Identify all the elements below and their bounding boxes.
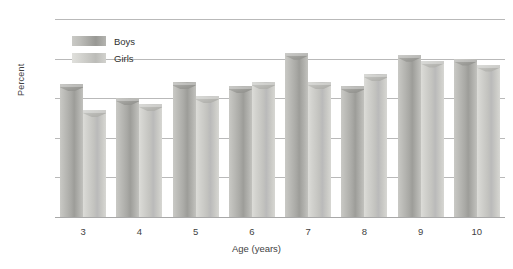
bar-body [398,55,421,217]
bar-girls-age-4 [139,104,162,217]
bar-cap-highlight [477,65,500,68]
bar-boys-age-8 [341,86,364,217]
bar-cap-highlight [398,55,421,58]
bar-boys-age-10 [454,59,477,217]
y-axis-title: Percent [16,64,26,96]
bar-body [60,84,83,217]
legend-item-boys: Boys [72,34,135,48]
bar-body [421,61,444,217]
bar-body [229,86,252,217]
bar-cap-highlight [83,110,106,113]
bar-girls-age-5 [196,96,219,217]
bar-cap-highlight [60,84,83,87]
bar-boys-age-9 [398,55,421,217]
legend-label-boys: Boys [114,36,135,47]
bar-body [139,104,162,217]
bar-body [252,82,275,217]
bar-girls-age-7 [308,82,331,217]
bar-girls-age-9 [421,61,444,217]
x-axis-tick-label: 4 [119,226,159,237]
bar-boys-age-7 [285,53,308,217]
bar-girls-age-6 [252,82,275,217]
bar-cap-highlight [364,74,387,77]
bar-girls-age-10 [477,65,500,217]
girls-swatch-icon [72,53,106,63]
x-axis-tick-label: 7 [288,226,328,237]
x-axis-title: Age (years) [0,243,513,254]
bar-chart: Percent 020406080100 345678910 Age (year… [0,0,513,269]
bar-cap-highlight [252,82,275,85]
x-axis-tick-label: 6 [232,226,272,237]
bar-body [454,59,477,217]
bar-body [173,82,196,217]
bar-body [285,53,308,217]
legend-label-girls: Girls [114,53,134,64]
bar-boys-age-3 [60,84,83,217]
x-axis-tick-label: 5 [176,226,216,237]
legend-item-girls: Girls [72,51,135,65]
bar-boys-age-5 [173,82,196,217]
bar-body [477,65,500,217]
bar-cap-highlight [139,104,162,107]
bar-cap-highlight [116,98,139,101]
bar-cap-highlight [341,86,364,89]
bar-girls-age-3 [83,110,106,217]
bar-cap-highlight [421,61,444,64]
gridline [55,19,505,20]
bar-body [341,86,364,217]
bar-body [364,74,387,217]
bar-body [308,82,331,217]
bar-girls-age-8 [364,74,387,217]
bar-cap-highlight [285,53,308,56]
bar-body [116,98,139,217]
x-axis-tick-label: 8 [344,226,384,237]
bar-cap-highlight [308,82,331,85]
bar-body [83,110,106,217]
legend: Boys Girls [72,34,135,68]
bar-cap-highlight [454,59,477,62]
bar-cap-highlight [229,86,252,89]
gridline [55,217,505,218]
x-axis-tick-label: 10 [457,226,497,237]
bar-boys-age-4 [116,98,139,217]
bar-body [196,96,219,217]
x-axis-tick-label: 9 [401,226,441,237]
bar-cap-highlight [196,96,219,99]
boys-swatch-icon [72,36,106,46]
bar-cap-highlight [173,82,196,85]
bar-boys-age-6 [229,86,252,217]
x-axis-tick-label: 3 [63,226,103,237]
